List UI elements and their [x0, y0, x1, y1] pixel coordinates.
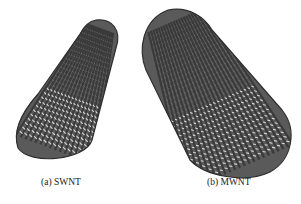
swnt-bond: [86, 155, 89, 158]
mwnt-bond: [252, 103, 255, 104]
mwnt-bond: [207, 17, 209, 18]
mwnt-bond: [241, 102, 244, 103]
mwnt-bond: [228, 137, 231, 138]
mwnt-bond: [213, 26, 215, 27]
mwnt-bond: [244, 107, 247, 108]
mwnt-bond: [208, 152, 211, 153]
mwnt-bond: [227, 161, 230, 162]
mwnt-bond: [245, 130, 248, 131]
mwnt-bond: [259, 135, 262, 136]
mwnt-bond: [247, 123, 250, 124]
mwnt-bond: [216, 31, 218, 32]
figure: (a) SWNT (b) MWNT: [0, 0, 301, 204]
mwnt-bond: [257, 130, 260, 131]
mwnt-bond: [255, 108, 258, 109]
mwnt-bond: [251, 121, 254, 122]
mwnt-bond: [191, 130, 194, 131]
mwnt-bond: [210, 174, 213, 175]
mwnt-bond: [177, 130, 180, 131]
mwnt-bond: [215, 143, 218, 144]
mwnt-bond: [224, 127, 227, 128]
mwnt-bond: [184, 156, 187, 157]
mwnt-bond: [181, 128, 184, 129]
mwnt-bond: [253, 114, 256, 115]
nanotube-illustrations: [0, 0, 301, 204]
mwnt-bond: [223, 151, 226, 152]
mwnt-bond: [200, 161, 203, 162]
mwnt-bond: [199, 126, 202, 127]
mwnt-bond: [259, 106, 262, 107]
swnt-tube-image: [0, 0, 150, 204]
mwnt-bond: [203, 113, 206, 114]
mwnt-bond: [233, 106, 236, 107]
mwnt-bond: [213, 167, 216, 168]
mwnt-bond: [281, 143, 284, 144]
mwnt-bond: [279, 139, 282, 140]
mwnt-bond: [202, 14, 204, 15]
mwnt-bond: [248, 158, 251, 159]
mwnt-bond: [213, 126, 216, 127]
mwnt-bond: [266, 109, 269, 110]
mwnt-bond: [194, 175, 197, 176]
mwnt-bond: [263, 122, 266, 123]
mwnt-bond: [236, 122, 239, 123]
mwnt-bond: [199, 156, 202, 157]
mwnt-bond: [258, 124, 261, 125]
mwnt-bond: [197, 150, 200, 151]
mwnt-bond: [191, 165, 194, 166]
mwnt-bond: [210, 157, 213, 158]
mwnt-bond: [187, 131, 190, 132]
mwnt-bond: [277, 127, 280, 128]
mwnt-bond: [239, 162, 242, 163]
mwnt-bond: [213, 138, 216, 139]
mwnt-bond: [210, 22, 212, 23]
mwnt-bond: [192, 118, 195, 119]
mwnt-bond: [219, 106, 222, 107]
mwnt-bond: [238, 115, 241, 116]
mwnt-bond: [258, 154, 261, 155]
mwnt-bond: [201, 119, 204, 120]
mwnt-bond: [182, 169, 185, 170]
mwnt-bond: [222, 163, 225, 164]
mwnt-bond: [283, 137, 286, 138]
mwnt-bond: [230, 119, 233, 120]
caption-mwnt: (b) MWNT: [207, 177, 251, 187]
mwnt-bond: [275, 123, 278, 124]
mwnt-bond: [200, 143, 203, 144]
mwnt-bond: [272, 118, 275, 119]
mwnt-bond: [227, 102, 230, 103]
mwnt-bond: [204, 141, 207, 142]
mwnt-bond: [226, 132, 229, 133]
mwnt-bond: [207, 123, 210, 124]
mwnt-bond: [211, 133, 214, 134]
swnt-bond: [96, 127, 99, 130]
mwnt-bond: [266, 127, 269, 128]
mwnt-bond: [264, 115, 267, 116]
mwnt-bond: [271, 136, 274, 137]
mwnt-bond: [187, 167, 190, 168]
mwnt-bond: [206, 147, 209, 148]
mwnt-bond: [276, 134, 279, 135]
mwnt-bond: [270, 125, 273, 126]
mwnt-bond: [210, 145, 213, 146]
mwnt-bond: [248, 134, 251, 135]
mwnt-bond: [204, 13, 206, 14]
mwnt-bond: [249, 116, 252, 117]
mwnt-bond: [243, 160, 246, 161]
mwnt-bond: [193, 152, 196, 153]
mwnt-bond: [253, 144, 256, 145]
mwnt-bond: [243, 136, 246, 137]
mwnt-bond: [241, 143, 244, 144]
swnt-bond: [94, 142, 97, 145]
mwnt-bond: [237, 133, 240, 134]
mwnt-bond: [214, 155, 217, 156]
mwnt-bond: [239, 127, 242, 128]
mwnt-bond: [215, 172, 218, 173]
mwnt-bond: [253, 156, 256, 157]
mwnt-bond: [203, 124, 206, 125]
mwnt-bond: [199, 173, 202, 174]
mwnt-bond: [205, 159, 208, 160]
swnt-bond: [81, 153, 84, 156]
mwnt-bond: [253, 97, 256, 98]
mwnt-bond: [234, 140, 237, 141]
